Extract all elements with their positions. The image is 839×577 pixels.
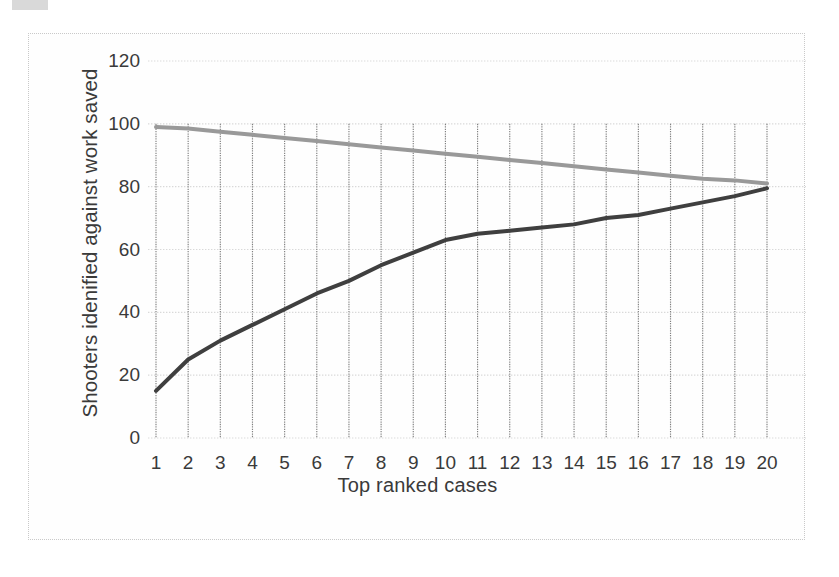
- x-tick-label: 12: [499, 452, 520, 474]
- x-tick-label: 2: [183, 452, 194, 474]
- series-line: [156, 188, 767, 391]
- horizontal-gridlines: [148, 61, 806, 438]
- x-tick-label: 20: [756, 452, 777, 474]
- x-tick-label: 18: [692, 452, 713, 474]
- y-axis-title: Shooters idenified against work saved: [73, 38, 107, 448]
- x-tick-label: 3: [215, 452, 226, 474]
- x-tick-label: 16: [628, 452, 649, 474]
- x-tick-label: 17: [660, 452, 681, 474]
- scan-artifact: [12, 0, 48, 10]
- vertical-gridlines: [156, 124, 767, 438]
- x-tick-label: 13: [531, 452, 552, 474]
- x-tick-label: 11: [468, 452, 488, 474]
- x-tick-label: 5: [279, 452, 290, 474]
- series-line: [156, 127, 767, 184]
- x-tick-label: 8: [376, 452, 387, 474]
- x-tick-label: 4: [247, 452, 258, 474]
- x-tick-label: 6: [311, 452, 322, 474]
- x-tick-label: 15: [596, 452, 617, 474]
- x-tick-label: 9: [408, 452, 419, 474]
- x-tick-label: 7: [344, 452, 355, 474]
- series-lines: [156, 127, 767, 391]
- x-tick-label: 1: [151, 452, 162, 474]
- x-tick-label: 19: [724, 452, 745, 474]
- x-axis-title: Top ranked cases: [29, 474, 806, 497]
- x-tick-label: 10: [435, 452, 456, 474]
- x-tick-label: 14: [563, 452, 584, 474]
- chart-frame: 020406080100120 123456789101112131415161…: [28, 33, 805, 540]
